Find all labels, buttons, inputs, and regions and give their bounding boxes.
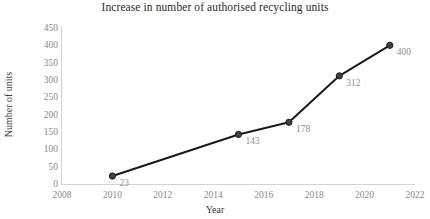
series-polyline — [112, 45, 389, 176]
data-point-marker — [286, 119, 292, 125]
x-tick-label: 2014 — [204, 190, 223, 200]
y-tick-label: 50 — [24, 162, 58, 172]
x-tick-label: 2008 — [53, 190, 72, 200]
data-point-marker — [387, 42, 393, 48]
data-point-marker — [336, 73, 342, 79]
y-tick-label: 150 — [24, 127, 58, 137]
y-tick-label: 450 — [24, 23, 58, 33]
y-tick-label: 0 — [24, 179, 58, 189]
x-tick-label: 2022 — [406, 190, 425, 200]
x-tick-label: 2012 — [153, 190, 172, 200]
x-axis-line — [61, 184, 415, 185]
y-tick-label: 300 — [24, 75, 58, 85]
data-point-marker — [109, 173, 115, 179]
y-tick-label: 350 — [24, 58, 58, 68]
x-tick-label: 2018 — [305, 190, 324, 200]
x-axis-title: Year — [0, 204, 430, 215]
y-tick-label: 400 — [24, 40, 58, 50]
data-point-label: 400 — [397, 47, 411, 57]
y-axis-tick-labels: 050100150200250300350400450 — [20, 0, 58, 219]
data-point-label: 178 — [296, 124, 310, 134]
y-tick-label: 200 — [24, 110, 58, 120]
y-tick-label: 250 — [24, 92, 58, 102]
data-point-label: 312 — [346, 78, 360, 88]
data-series-line — [62, 28, 415, 184]
y-axis-title: Number of units — [3, 55, 14, 155]
x-tick-label: 2016 — [254, 190, 273, 200]
data-point-label: 143 — [246, 136, 260, 146]
chart-title: Increase in number of authorised recycli… — [0, 1, 430, 13]
x-tick-label: 2010 — [103, 190, 122, 200]
x-tick-label: 2020 — [355, 190, 374, 200]
data-point-label: 23 — [119, 178, 129, 188]
x-axis-tick-labels: 20082010201220142016201820202022 — [0, 190, 430, 204]
plot-area — [62, 28, 415, 184]
data-point-marker — [235, 131, 241, 137]
y-tick-label: 100 — [24, 144, 58, 154]
line-chart: Increase in number of authorised recycli… — [0, 0, 430, 219]
